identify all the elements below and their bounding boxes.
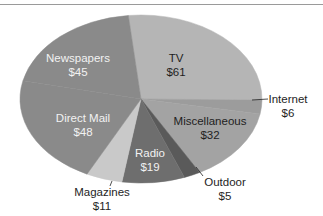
label-radio-name: Radio <box>135 147 165 159</box>
label-magazines: Magazines $11 <box>74 186 130 212</box>
label-directmail-name: Direct Mail <box>56 112 110 124</box>
label-internet: Internet $6 <box>269 93 309 119</box>
label-outdoor: Outdoor $5 <box>204 176 246 202</box>
label-outdoor-value: $5 <box>219 190 232 202</box>
label-directmail-value: $48 <box>73 126 92 138</box>
label-tv-value: $61 <box>166 66 185 78</box>
label-magazines-value: $11 <box>93 200 111 212</box>
label-internet-value: $6 <box>282 107 295 119</box>
label-misc-value: $32 <box>200 129 219 141</box>
label-misc-name: Miscellaneous <box>174 115 247 127</box>
label-internet-name: Internet <box>269 93 309 105</box>
label-newspapers-name: Newspapers <box>46 52 110 64</box>
label-outdoor-name: Outdoor <box>204 176 246 188</box>
label-newspapers-value: $45 <box>68 66 87 78</box>
label-radio-value: $19 <box>140 161 159 173</box>
label-tv-name: TV <box>169 52 184 64</box>
pie-chart: Newspapers $45 TV $61 Internet $6 Miscel… <box>0 0 323 216</box>
slice-tv <box>128 15 262 100</box>
label-magazines-name: Magazines <box>74 186 130 198</box>
